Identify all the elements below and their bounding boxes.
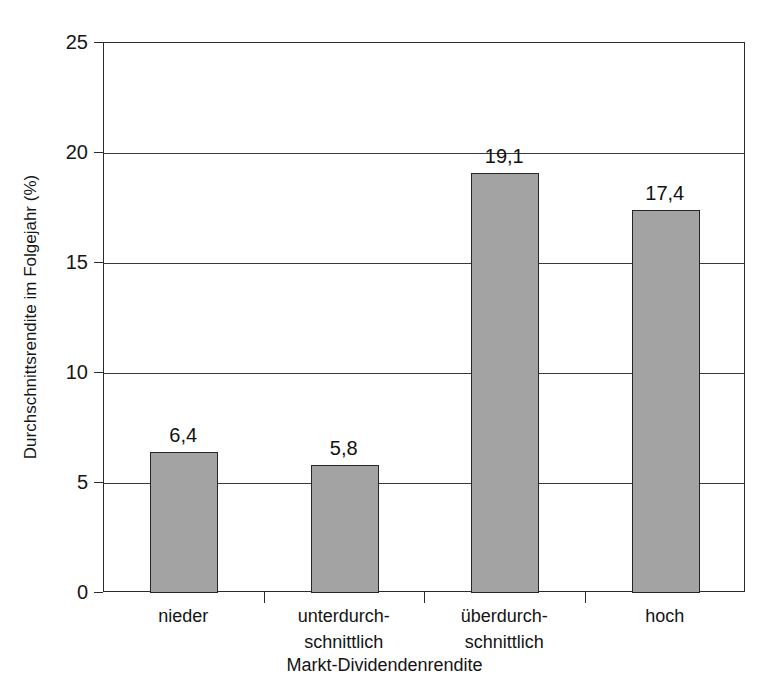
- y-axis-tick-label: 15: [18, 252, 88, 272]
- x-axis-category-label-line: hoch: [575, 603, 755, 629]
- bar-value-label: 19,1: [444, 146, 564, 166]
- y-axis-tick: [94, 482, 103, 483]
- x-axis-category-label-line: unterdurch-: [254, 603, 434, 629]
- x-axis-tick: [264, 592, 265, 603]
- bar: [471, 173, 539, 593]
- gridline: [104, 153, 744, 154]
- y-axis-tick: [94, 42, 103, 43]
- x-axis-tick: [585, 592, 586, 603]
- x-axis-category-label: hoch: [575, 603, 755, 629]
- bar: [632, 210, 700, 593]
- y-axis-title: Durchschnittsrendite im Folgejahr (%): [18, 42, 44, 592]
- plot-area: [103, 42, 745, 592]
- y-axis-tick: [94, 592, 103, 593]
- y-axis-tick-label: 20: [18, 142, 88, 162]
- bar-value-label: 6,4: [123, 425, 243, 445]
- y-axis-title-text: Durchschnittsrendite im Folgejahr (%): [21, 175, 41, 459]
- x-axis-category-label: überdurch-schnittlich: [414, 603, 594, 655]
- x-axis-title: Markt-Dividendenrendite: [0, 655, 769, 676]
- x-axis-category-label: unterdurch-schnittlich: [254, 603, 434, 655]
- y-axis-tick: [94, 262, 103, 263]
- y-axis-tick-label: 0: [18, 582, 88, 602]
- x-axis-category-label-line: schnittlich: [254, 629, 434, 655]
- bar: [150, 452, 218, 593]
- x-axis-category-label-line: nieder: [93, 603, 273, 629]
- x-axis-tick: [424, 592, 425, 603]
- bar-value-label: 5,8: [284, 438, 404, 458]
- x-axis-category-label-line: überdurch-: [414, 603, 594, 629]
- bar: [311, 465, 379, 593]
- x-axis-category-label-line: schnittlich: [414, 629, 594, 655]
- chart-figure: Abbildung Durchschnittsrendite im Folgej…: [0, 0, 769, 689]
- y-axis-tick: [94, 152, 103, 153]
- y-axis-tick: [94, 372, 103, 373]
- y-axis-tick-label: 10: [18, 362, 88, 382]
- y-axis-tick-label: 25: [18, 32, 88, 52]
- x-axis-category-label: nieder: [93, 603, 273, 629]
- y-axis-tick-label: 5: [18, 472, 88, 492]
- bar-value-label: 17,4: [605, 183, 725, 203]
